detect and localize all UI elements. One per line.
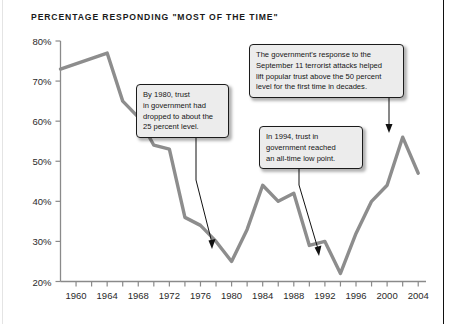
x-axis-tick-label: 1984 xyxy=(246,290,280,301)
annotation-callout-sept11: The government's response to the Septemb… xyxy=(249,44,404,98)
callout-sept11-line-1: The government's response to the xyxy=(256,50,397,61)
y-axis-ticks xyxy=(56,41,61,282)
x-axis-tick-label: 1976 xyxy=(183,290,217,301)
y-axis-tick-label: 40% xyxy=(18,196,52,207)
callout-sept11-line-3: lift popular trust above the 50 percent xyxy=(256,72,397,83)
x-axis-tick-label: 1988 xyxy=(277,290,311,301)
x-axis-tick-label: 2004 xyxy=(401,290,435,301)
y-axis-tick-label: 70% xyxy=(18,76,52,87)
y-axis-tick-label: 20% xyxy=(18,276,52,287)
x-axis-tick-label: 1964 xyxy=(90,290,124,301)
x-axis-tick-label: 1992 xyxy=(308,290,342,301)
leader-sept11 xyxy=(386,94,393,133)
x-axis-tick-label: 1968 xyxy=(121,290,155,301)
x-axis-ticks xyxy=(76,282,418,287)
y-axis-tick-label: 50% xyxy=(18,156,52,167)
callout-1980-line-3: dropped to about the xyxy=(143,112,222,123)
callout-1980-line-4: 25 percent level. xyxy=(143,122,222,133)
x-axis-tick-label: 1972 xyxy=(152,290,186,301)
callout-1980-line-2: in government had xyxy=(143,101,222,112)
callout-sept11-line-4: level for the first time in decades. xyxy=(256,82,397,93)
annotation-callout-1980: By 1980, trust in government had dropped… xyxy=(136,84,229,138)
callout-1994-line-1: In 1994, trust in xyxy=(266,132,356,143)
annotation-callout-1994: In 1994, trust in government reached an … xyxy=(259,126,363,169)
y-axis-tick-label: 80% xyxy=(18,36,52,47)
x-axis-tick-label: 2000 xyxy=(370,290,404,301)
x-axis-tick-label: 1996 xyxy=(339,290,373,301)
callout-1980-line-1: By 1980, trust xyxy=(143,90,222,101)
x-axis-tick-label: 1960 xyxy=(59,290,93,301)
x-axis-tick-label: 1980 xyxy=(215,290,249,301)
y-axis-tick-label: 30% xyxy=(18,236,52,247)
callout-sept11-line-2: September 11 terrorist attacks helped xyxy=(256,61,397,72)
callout-1994-line-2: government reached xyxy=(266,143,356,154)
callout-1994-line-3: an all-time low point. xyxy=(266,154,356,165)
chart-figure: PERCENTAGE RESPONDING "MOST OF THE TIME" xyxy=(0,0,461,324)
y-axis-tick-label: 60% xyxy=(18,116,52,127)
